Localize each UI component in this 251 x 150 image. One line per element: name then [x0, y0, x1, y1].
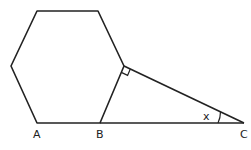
angle-x-arc — [218, 112, 221, 123]
geometry-diagram: A B C x — [0, 0, 251, 150]
label-b: B — [96, 128, 104, 141]
label-c: C — [240, 128, 248, 141]
label-a: A — [33, 128, 41, 141]
label-angle-x: x — [203, 110, 210, 123]
hexagon — [11, 11, 124, 123]
line-tangent-to-c — [124, 66, 244, 123]
